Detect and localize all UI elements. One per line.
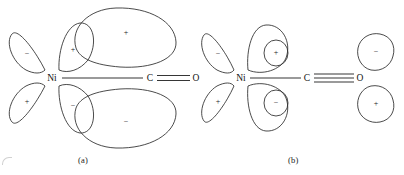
- b-atom-label-ni: Ni: [236, 73, 246, 83]
- b-o-upper-lobe-sign: −: [374, 47, 379, 56]
- b-ni-upper-inner-lobe: [248, 25, 288, 72]
- a-ni-lower-inner-lobe-sign: −: [71, 101, 76, 110]
- a-co-upper-pi-lobe: [75, 8, 176, 67]
- b-ni-upper-left-lobe-sign: −: [216, 49, 221, 58]
- a-ni-lower-inner-lobe: [59, 84, 94, 133]
- a-atom-label-o: O: [193, 73, 200, 83]
- a-ni-upper-inner-lobe: [59, 23, 94, 72]
- a-ni-lower-left-lobe-sign: +: [25, 97, 30, 106]
- caption-panel-b: (b): [288, 155, 299, 165]
- b-ni-lower-left-lobe-sign: +: [216, 97, 221, 106]
- caption-panel-a: (a): [78, 155, 88, 165]
- b-ni-lower-inner-lobe: [248, 84, 288, 131]
- b-atom-label-o: O: [357, 73, 364, 83]
- panel-b: − + + − − +: [202, 25, 394, 131]
- b-ni-upper-inner-lobe-sign: +: [274, 48, 279, 57]
- figure-canvas: − + + − + − Ni C: [0, 0, 404, 175]
- b-o-lower-lobe-sign: +: [374, 99, 379, 108]
- orbital-overlap-figure: − + + − + − Ni C: [0, 0, 404, 175]
- panel-a: − + + − + − Ni C: [9, 8, 203, 148]
- a-ni-upper-inner-lobe-sign: +: [71, 45, 76, 54]
- a-atom-label-c: C: [147, 73, 153, 83]
- scan-artifact-mark: [2, 157, 12, 165]
- a-co-lower-pi-lobe-sign: −: [124, 117, 129, 126]
- b-ni-lower-inner-lobe-sign: −: [274, 98, 279, 107]
- a-ni-upper-left-lobe-sign: −: [25, 49, 30, 58]
- a-co-upper-pi-lobe-sign: +: [124, 28, 129, 37]
- a-atom-label-ni: Ni: [47, 73, 57, 83]
- b-atom-label-c: C: [304, 73, 310, 83]
